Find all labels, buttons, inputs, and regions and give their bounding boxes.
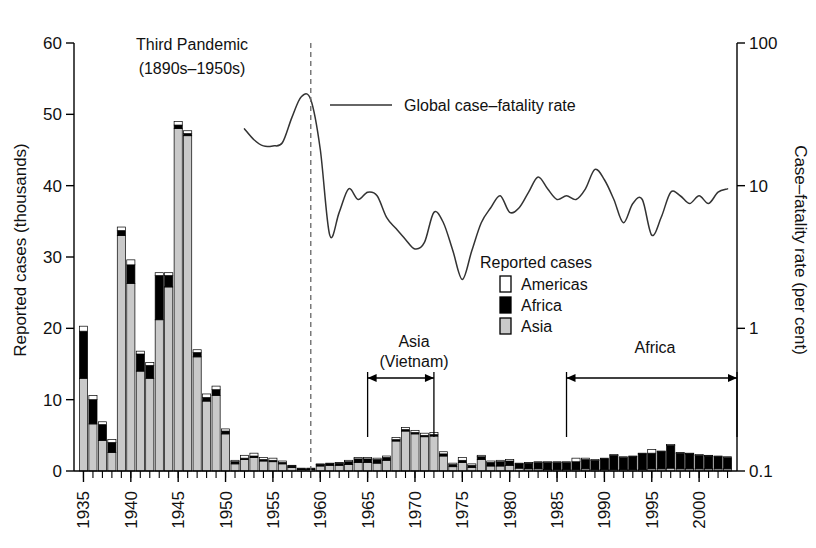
y2-tick-label: 1 [749, 319, 758, 338]
x-tick-label: 1995 [643, 491, 662, 529]
bar-segment-americas [638, 453, 646, 454]
bar-segment-asia [439, 456, 447, 471]
bar-segment-americas [373, 458, 381, 459]
bar-segment-africa [89, 400, 97, 424]
bar-segment-africa [354, 459, 362, 463]
bar-segment-africa [487, 462, 495, 466]
cfr-legend-label: Global case–fatality rate [404, 97, 576, 114]
bar-segment-asia [392, 441, 400, 471]
bar-segment-asia [496, 466, 504, 471]
bar-segment-africa [553, 462, 561, 469]
x-tick-label: 1955 [264, 491, 283, 529]
y-tick-label: 0 [53, 462, 62, 481]
y-tick-label: 40 [43, 177, 62, 196]
bar-segment-africa [496, 462, 504, 466]
bar-segment-asia [326, 465, 334, 471]
bar-segment-americas [108, 440, 116, 443]
bar-segment-americas [723, 457, 731, 458]
bar-segment-asia [278, 464, 286, 471]
bar-segment-americas [619, 457, 627, 458]
bar-segment-asia [316, 466, 324, 471]
vietnam-label-line1: Asia [398, 333, 429, 350]
y-axis-title: Reported cases (thousands) [11, 143, 30, 357]
bar-segment-americas [250, 453, 258, 456]
third-pandemic-label-line1: Third Pandemic [136, 36, 248, 53]
x-tick-label: 1970 [406, 491, 425, 529]
bar-segment-asia [364, 462, 372, 471]
bar-segment-americas [382, 456, 390, 457]
cfr-line-layer [244, 94, 727, 280]
bar-segment-americas [335, 462, 343, 463]
bar-segment-africa [373, 460, 381, 464]
bar-segment-americas [345, 460, 353, 461]
bar-segment-africa [155, 276, 163, 320]
bar-segment-asia [269, 462, 277, 471]
x-tick-label: 1950 [217, 491, 236, 529]
legend-title: Reported cases [480, 254, 592, 271]
bar-segment-asia [203, 401, 211, 471]
y-tick-label: 50 [43, 105, 62, 124]
bar-segment-africa [174, 125, 182, 129]
bar-segment-asia [212, 395, 220, 471]
bar-segment-americas [316, 464, 324, 465]
bar-segment-americas [326, 463, 334, 464]
bar-segment-americas [468, 464, 476, 465]
bar-segment-asia [108, 452, 116, 471]
bar-segment-africa [723, 457, 731, 468]
bar-segment-americas [136, 351, 144, 354]
bar-segment-americas [174, 121, 182, 125]
legend-label-asia: Asia [521, 318, 552, 335]
bar-segment-americas [572, 458, 580, 462]
bar-segment-asia [79, 378, 87, 471]
bar-segment-africa [695, 455, 703, 469]
bar-segment-africa [572, 462, 580, 470]
legend-swatch-africa [500, 297, 511, 313]
bar-segment-americas [581, 458, 589, 459]
bar-segment-asia [411, 434, 419, 471]
bar-segment-americas [610, 455, 618, 456]
bar-segment-asia [259, 461, 267, 471]
bar-segment-africa [667, 445, 675, 468]
bar-segment-americas [231, 460, 239, 461]
bar-segment-africa [591, 460, 599, 469]
bar-segment-asia [240, 460, 248, 471]
bar-segment-americas [553, 462, 561, 463]
bar-segment-asia [165, 287, 173, 471]
bar-segment-africa [221, 431, 229, 434]
legend-label-africa: Africa [521, 297, 562, 314]
bar-segment-americas [165, 273, 173, 276]
y2-tick-label: 0.1 [749, 462, 773, 481]
bar-segment-americas [212, 386, 220, 390]
bar-segment-americas [146, 363, 154, 366]
bar-segment-americas [477, 455, 485, 456]
legend-swatch-americas [500, 276, 511, 292]
bar-segment-americas [515, 463, 523, 464]
bar-segment-asia [89, 424, 97, 471]
bar-segment-asia [136, 371, 144, 471]
bar-segment-africa [544, 462, 552, 469]
bar-segment-africa [714, 457, 722, 469]
bar-segment-americas [562, 462, 570, 463]
bar-segment-americas [705, 455, 713, 456]
bar-segment-africa [146, 365, 154, 378]
bar-segment-asia [193, 357, 201, 471]
legend-swatch-asia [500, 318, 511, 334]
vietnam-bracket-arrow-right [425, 374, 434, 382]
africa-bracket-arrow-right [728, 374, 737, 382]
bar-segment-africa [165, 276, 173, 287]
bar-segment-africa [136, 354, 144, 371]
bar-segment-asia [382, 460, 390, 471]
bar-segment-africa [562, 462, 570, 469]
chart-canvas: 01020304050600.1110100193519401945195019… [0, 0, 816, 548]
bar-segment-asia [127, 283, 135, 471]
vietnam-label-line2: (Vietnam) [379, 353, 448, 370]
africa-bracket-label: Africa [635, 339, 676, 356]
bar-segment-africa [477, 457, 485, 460]
bar-segment-asia [146, 378, 154, 471]
bar-segment-asia [430, 436, 438, 471]
x-tick-label: 1940 [122, 491, 141, 529]
bar-segment-asia [98, 440, 106, 471]
bar-segment-africa [648, 453, 656, 469]
x-tick-label: 1960 [311, 491, 330, 529]
bar-segment-africa [515, 464, 523, 468]
